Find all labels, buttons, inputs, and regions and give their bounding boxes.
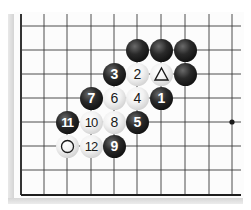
black-stone: 5 — [126, 111, 149, 134]
move-number: 1 — [158, 91, 165, 105]
white-stone: 8 — [103, 111, 126, 134]
white-stone: 2 — [126, 63, 149, 86]
black-stone — [174, 39, 197, 62]
black-stone — [126, 39, 149, 62]
circle-marker-icon — [56, 135, 79, 158]
move-number: 6 — [111, 91, 118, 105]
white-stone: 4 — [126, 87, 149, 110]
black-stone — [174, 63, 197, 86]
move-number: 9 — [111, 139, 118, 153]
move-number: 3 — [111, 67, 118, 81]
white-stone: 10 — [80, 111, 103, 134]
move-number: 7 — [88, 91, 95, 105]
black-stone: 1 — [150, 87, 173, 110]
white-stone — [56, 135, 79, 158]
board-grid — [0, 0, 251, 210]
black-stone: 3 — [103, 63, 126, 86]
move-number: 5 — [134, 115, 141, 129]
white-stone: 12 — [80, 135, 103, 158]
move-number: 2 — [134, 67, 141, 81]
black-stone: 9 — [103, 135, 126, 158]
move-number: 12 — [85, 140, 97, 153]
move-number: 10 — [85, 116, 97, 129]
black-stone — [150, 39, 173, 62]
white-stone: 6 — [103, 87, 126, 110]
black-stone: 7 — [80, 87, 103, 110]
black-stone: 11 — [56, 111, 79, 134]
white-stone — [150, 63, 173, 86]
move-number: 4 — [134, 91, 141, 105]
triangle-marker-icon — [150, 63, 173, 86]
move-number: 8 — [111, 115, 118, 129]
star-point — [229, 119, 234, 124]
move-number: 11 — [61, 116, 73, 129]
